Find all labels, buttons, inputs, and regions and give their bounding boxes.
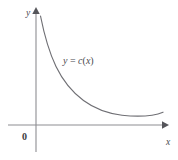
curve-label-operator: =: [67, 55, 78, 66]
cost-curve-path: [41, 16, 164, 116]
curve-equation-label: y = c(x): [62, 55, 94, 67]
curve-label-close-paren: ): [90, 55, 93, 67]
x-axis-arrow-icon: [162, 121, 169, 128]
y-axis-label: y: [25, 8, 31, 18]
x-axis-label: x: [165, 137, 171, 147]
graph-figure: y x 0 y = c(x): [0, 0, 178, 160]
origin-label: 0: [22, 131, 27, 142]
y-axis-arrow-icon: [32, 7, 39, 14]
graph-canvas: y x 0 y = c(x): [0, 0, 178, 160]
